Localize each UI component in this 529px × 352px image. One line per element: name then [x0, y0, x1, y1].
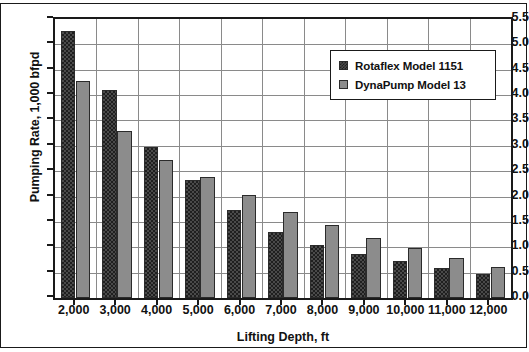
- x-tick-mark: [156, 299, 158, 305]
- bar-dynapump-model-13-6000: [242, 195, 257, 298]
- gridline-vertical: [262, 19, 263, 298]
- bar-rotaflex-model-1151-6000: [227, 210, 242, 298]
- bar-dynapump-model-13-12000: [491, 267, 506, 298]
- x-tick-label: 6,000: [224, 303, 255, 317]
- legend-label-dynapump: DynaPump Model 13: [355, 79, 466, 91]
- bar-rotaflex-model-1151-7000: [268, 232, 283, 298]
- x-tick-label: 10,000: [386, 303, 424, 317]
- legend-item-rotaflex: Rotaflex Model 1151: [337, 56, 489, 75]
- gridline-vertical: [221, 19, 222, 298]
- x-tick-mark: [280, 299, 282, 305]
- gridline-horizontal: [55, 44, 511, 45]
- bar-dynapump-model-13-2000: [76, 81, 91, 298]
- x-tick-mark: [73, 299, 75, 305]
- x-tick-label: 11,000: [428, 303, 466, 317]
- gridline-vertical: [304, 19, 305, 298]
- bar-dynapump-model-13-3000: [117, 131, 132, 298]
- bar-rotaflex-model-1151-3000: [102, 90, 117, 298]
- legend-label-rotaflex: Rotaflex Model 1151: [355, 60, 463, 72]
- legend-swatch-icon-dynapump: [339, 80, 348, 89]
- x-tick-mark: [487, 299, 489, 305]
- x-tick-label: 3,000: [100, 303, 131, 317]
- gridline-vertical: [96, 19, 97, 298]
- x-tick-label: 2,000: [58, 303, 89, 317]
- y-axis-title: Pumping Rate, 1,000 bfpd: [28, 12, 42, 242]
- bar-dynapump-model-13-5000: [200, 177, 215, 298]
- chart-page: Pumping Rate, 1,000 bfpd 0.00.51.01.52.0…: [0, 0, 529, 352]
- x-axis-title: Lifting Depth, ft: [48, 330, 518, 344]
- bar-dynapump-model-13-11000: [449, 258, 464, 298]
- x-tick-label: 9,000: [348, 303, 379, 317]
- bar-rotaflex-model-1151-12000: [476, 274, 491, 298]
- x-tick-mark: [114, 299, 116, 305]
- x-tick-mark: [363, 299, 365, 305]
- x-tick-mark: [197, 299, 199, 305]
- x-tick-label: 5,000: [182, 303, 213, 317]
- bar-rotaflex-model-1151-9000: [351, 254, 366, 298]
- x-tick-label: 8,000: [307, 303, 338, 317]
- gridline-vertical: [179, 19, 180, 298]
- x-tick-mark: [321, 299, 323, 305]
- x-tick-mark: [239, 299, 241, 305]
- gridline-vertical: [138, 19, 139, 298]
- x-tick-label: 4,000: [141, 303, 172, 317]
- bar-rotaflex-model-1151-8000: [310, 245, 325, 298]
- bar-rotaflex-model-1151-2000: [61, 31, 76, 298]
- bar-dynapump-model-13-8000: [325, 225, 340, 298]
- bar-dynapump-model-13-10000: [408, 248, 423, 298]
- bar-rotaflex-model-1151-10000: [393, 261, 408, 298]
- bar-rotaflex-model-1151-4000: [144, 147, 159, 298]
- bar-rotaflex-model-1151-5000: [185, 180, 200, 298]
- x-tick-label: 7,000: [265, 303, 296, 317]
- bar-dynapump-model-13-7000: [283, 212, 298, 298]
- bar-dynapump-model-13-9000: [366, 238, 381, 298]
- chart-legend: Rotaflex Model 1151 DynaPump Model 13: [330, 50, 496, 100]
- x-tick-mark: [404, 299, 406, 305]
- legend-item-dynapump: DynaPump Model 13: [337, 75, 489, 94]
- bar-dynapump-model-13-4000: [159, 160, 174, 298]
- bar-rotaflex-model-1151-11000: [434, 268, 449, 298]
- x-tick-mark: [446, 299, 448, 305]
- gridline-horizontal: [55, 120, 511, 121]
- legend-swatch-icon-rotaflex: [339, 61, 348, 70]
- x-tick-label: 12,000: [469, 303, 507, 317]
